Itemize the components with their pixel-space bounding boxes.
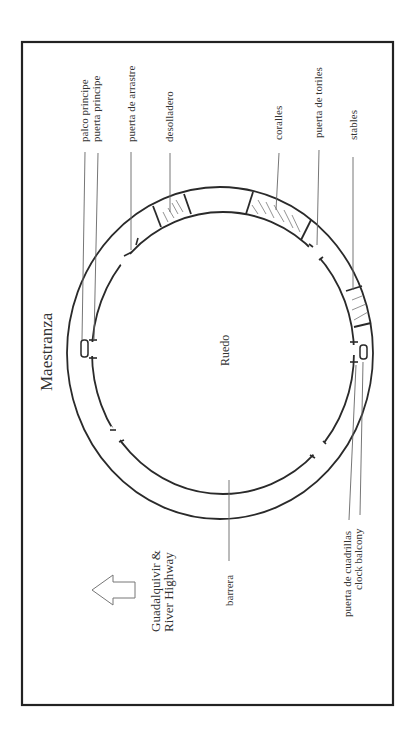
label-coralles: coralles: [272, 106, 284, 140]
label-puerta-principe: puerta principe: [90, 76, 102, 142]
ruedo-label: Ruedo: [218, 335, 232, 366]
labels-top: palco principe puerta principe puerta de…: [78, 66, 359, 142]
label-puerta-de-toriles: puerta de toriles: [312, 67, 324, 138]
diagram-title: Maestranza: [37, 312, 56, 391]
label-barrera: barrera: [223, 575, 235, 606]
label-clock-balcony: clock balcony: [352, 528, 364, 590]
arrow-left-icon: [92, 575, 135, 605]
labels-bottom: barrera puerta de cuadrillas clock balco…: [223, 528, 364, 617]
clock-balcony-box: [360, 345, 367, 359]
desolladero-section: [153, 194, 191, 227]
bullring-diagram: palco principe puerta principe puerta de…: [0, 0, 418, 754]
direction-line2: River Highway: [161, 552, 176, 632]
palco-principe-box: [81, 340, 88, 357]
label-palco-principe: palco principe: [78, 79, 90, 142]
label-puerta-de-arrastre: puerta de arrastre: [125, 66, 137, 142]
label-stables: stables: [347, 110, 359, 140]
label-desolladero: desolladero: [163, 91, 175, 142]
